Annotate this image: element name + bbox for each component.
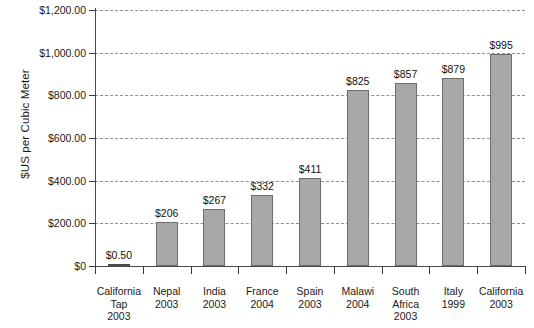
bar [108,264,130,266]
bar [156,222,178,266]
bar-value-label: $0.50 [106,249,132,261]
gridline-1200 [95,10,525,11]
y-tick-mark [89,138,96,139]
y-tick-mark [89,10,96,11]
y-axis-tick-label: $400.00 [48,175,86,187]
bar-value-label: $267 [203,194,226,206]
bar [203,209,225,266]
bar-value-label: $206 [155,207,178,219]
x-tick-mark [191,266,192,274]
y-tick-mark [89,223,96,224]
bar [395,83,417,266]
y-axis-tick-label: $200.00 [48,217,86,229]
y-tick-mark [89,95,96,96]
bar [347,90,369,266]
bar [299,178,321,266]
bar-value-label: $995 [489,39,512,51]
x-tick-mark [143,266,144,274]
y-axis-tick-label: $1,200.00 [39,4,86,16]
x-tick-mark [477,266,478,274]
bar-value-label: $857 [394,68,417,80]
x-tick-mark [95,266,96,274]
bar-value-label: $879 [442,63,465,75]
x-axis-category-line: 2003 [82,310,156,323]
x-tick-mark [238,266,239,274]
bar-value-label: $825 [346,75,369,87]
y-axis-title: $US per Cubic Meter [19,14,31,234]
bar-value-label: $411 [299,163,322,175]
y-tick-mark [89,53,96,54]
x-axis-category-line: 2003 [369,310,443,323]
bar-chart: $US per Cubic Meter $0$200.00$400.00$600… [0,0,534,328]
x-tick-mark [334,266,335,274]
y-axis-tick-label: $1,000.00 [39,47,86,59]
x-axis-category-label: California2003 [464,285,534,310]
gridline-0 [95,266,525,267]
plot-area: $0$200.00$400.00$600.00$800.00$1,000.00$… [95,10,525,266]
x-tick-mark [382,266,383,274]
y-tick-mark [89,181,96,182]
x-axis-category-line: California [464,285,534,298]
gridline-1000 [95,53,525,54]
x-tick-mark [286,266,287,274]
bar [490,54,512,266]
bar [442,78,464,266]
y-axis-tick-label: $600.00 [48,132,86,144]
y-axis-tick-label: $800.00 [48,89,86,101]
bar [251,195,273,266]
y-axis-tick-label: $0 [74,260,86,272]
bar-value-label: $332 [251,180,274,192]
x-tick-mark [525,266,526,274]
x-axis-category-line: 2003 [464,298,534,311]
x-tick-mark [429,266,430,274]
